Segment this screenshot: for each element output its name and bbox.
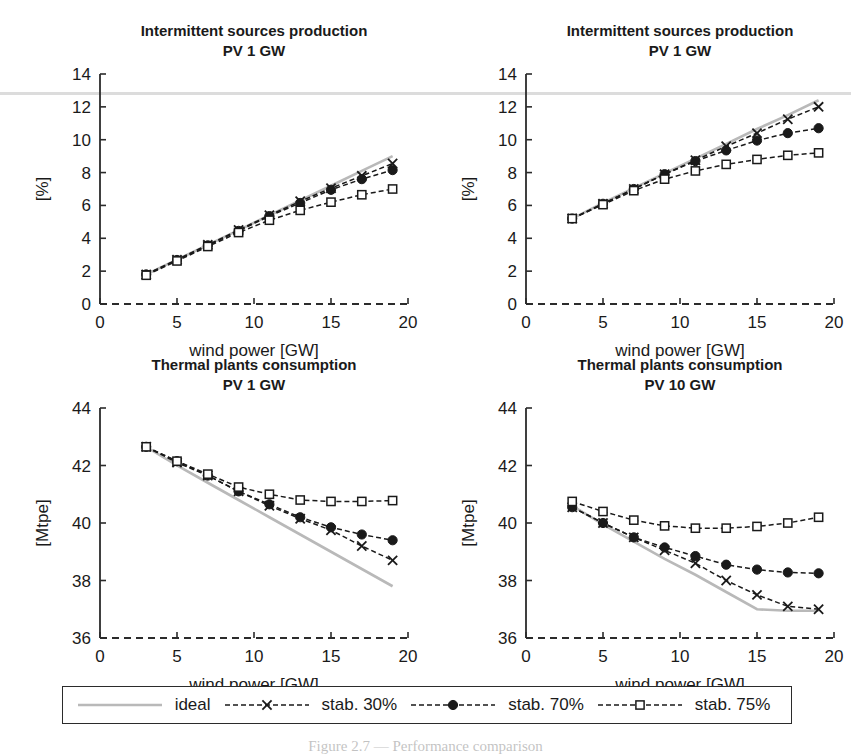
svg-text:5: 5 <box>172 313 181 332</box>
svg-text:10: 10 <box>245 313 264 332</box>
svg-text:Intermittent sources productio: Intermittent sources production <box>141 22 368 39</box>
svg-text:10: 10 <box>72 131 91 150</box>
svg-text:[Mtpe]: [Mtpe] <box>459 499 478 546</box>
svg-text:0: 0 <box>521 313 530 332</box>
legend-label: stab. 75% <box>686 695 781 715</box>
svg-text:42: 42 <box>498 457 517 476</box>
svg-text:0: 0 <box>95 313 104 332</box>
svg-text:5: 5 <box>598 313 607 332</box>
svg-text:5: 5 <box>172 647 181 666</box>
legend-item-stab-30-: stab. 30% <box>221 694 408 716</box>
svg-text:20: 20 <box>399 647 418 666</box>
legend-label: stab. 30% <box>313 695 408 715</box>
svg-text:10: 10 <box>671 647 690 666</box>
legend-swatch <box>221 694 313 716</box>
svg-text:10: 10 <box>245 647 264 666</box>
svg-text:8: 8 <box>82 164 91 183</box>
chart-panel-top-left: Intermittent sources productionPV 1 GW02… <box>0 18 425 328</box>
svg-text:15: 15 <box>748 647 767 666</box>
svg-text:36: 36 <box>498 629 517 648</box>
svg-text:20: 20 <box>825 313 844 332</box>
svg-text:0: 0 <box>95 647 104 666</box>
svg-text:[%]: [%] <box>459 177 478 202</box>
svg-text:12: 12 <box>72 98 91 117</box>
svg-text:Thermal plants consumption: Thermal plants consumption <box>151 356 356 373</box>
legend-row: idealstab. 30%stab. 70%stab. 75% <box>63 687 791 723</box>
svg-text:10: 10 <box>498 131 517 150</box>
svg-text:[%]: [%] <box>33 177 52 202</box>
svg-text:15: 15 <box>322 313 341 332</box>
svg-text:2: 2 <box>82 262 91 281</box>
svg-text:44: 44 <box>498 399 517 418</box>
svg-text:15: 15 <box>748 313 767 332</box>
legend-item-stab-75-: stab. 75% <box>594 694 781 716</box>
svg-text:5: 5 <box>598 647 607 666</box>
svg-text:10: 10 <box>671 313 690 332</box>
svg-text:20: 20 <box>399 313 418 332</box>
svg-text:6: 6 <box>82 196 91 215</box>
figure-legend: idealstab. 30%stab. 70%stab. 75% <box>62 686 792 724</box>
figure-caption: Figure 2.7 — Performance comparison <box>0 738 851 755</box>
chart-top-left: Intermittent sources productionPV 1 GW02… <box>0 18 425 328</box>
svg-text:Intermittent sources productio: Intermittent sources production <box>567 22 794 39</box>
svg-text:PV 1 GW: PV 1 GW <box>223 42 286 59</box>
svg-text:4: 4 <box>508 229 517 248</box>
chart-top-right: Intermittent sources productionPV 1 GW02… <box>426 18 851 328</box>
svg-text:4: 4 <box>82 229 91 248</box>
svg-text:0: 0 <box>508 295 517 314</box>
svg-text:44: 44 <box>72 399 91 418</box>
svg-text:42: 42 <box>72 457 91 476</box>
legend-label: ideal <box>166 695 221 715</box>
chart-panel-bottom-right: Thermal plants consumptionPV 10 GW363840… <box>426 352 851 670</box>
chart-panel-top-right: Intermittent sources productionPV 1 GW02… <box>426 18 851 328</box>
svg-text:12: 12 <box>498 98 517 117</box>
svg-text:8: 8 <box>508 164 517 183</box>
legend-item-ideal: ideal <box>74 694 221 716</box>
svg-text:[Mtpe]: [Mtpe] <box>33 499 52 546</box>
svg-text:2: 2 <box>508 262 517 281</box>
legend-item-stab-70-: stab. 70% <box>407 694 594 716</box>
legend-swatch <box>74 694 166 716</box>
svg-text:PV 1 GW: PV 1 GW <box>649 42 712 59</box>
svg-text:14: 14 <box>72 65 91 84</box>
legend-label: stab. 70% <box>499 695 594 715</box>
svg-text:20: 20 <box>825 647 844 666</box>
svg-text:14: 14 <box>498 65 517 84</box>
svg-text:15: 15 <box>322 647 341 666</box>
figure-page: Intermittent sources productionPV 1 GW02… <box>0 0 851 756</box>
chart-bottom-left: Thermal plants consumptionPV 1 GW3638404… <box>0 352 425 670</box>
svg-text:38: 38 <box>72 572 91 591</box>
svg-text:0: 0 <box>82 295 91 314</box>
svg-text:40: 40 <box>72 514 91 533</box>
svg-text:Thermal plants consumption: Thermal plants consumption <box>577 356 782 373</box>
svg-text:36: 36 <box>72 629 91 648</box>
svg-text:PV 1 GW: PV 1 GW <box>223 376 286 393</box>
svg-text:6: 6 <box>508 196 517 215</box>
chart-panel-bottom-left: Thermal plants consumptionPV 1 GW3638404… <box>0 352 425 670</box>
svg-text:PV 10 GW: PV 10 GW <box>645 376 717 393</box>
legend-swatch <box>407 694 499 716</box>
svg-text:38: 38 <box>498 572 517 591</box>
svg-text:0: 0 <box>521 647 530 666</box>
svg-text:40: 40 <box>498 514 517 533</box>
chart-bottom-right: Thermal plants consumptionPV 10 GW363840… <box>426 352 851 670</box>
legend-swatch <box>594 694 686 716</box>
